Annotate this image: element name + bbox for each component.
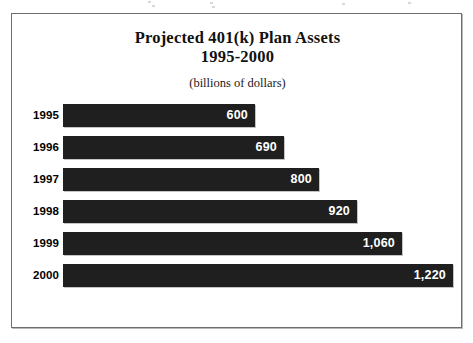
chart-title: Projected 401(k) Plan Assets <box>12 28 463 47</box>
scan-artifacts <box>0 0 473 12</box>
bar-chart-plot-area: 199560019966901997800199892019991,060200… <box>12 104 463 319</box>
bar-category-label: 1997 <box>12 168 59 191</box>
chart-title-block: Projected 401(k) Plan Assets 1995-2000 (… <box>12 28 463 91</box>
bar-category-label: 2000 <box>12 264 59 287</box>
chart-title-years: 1995-2000 <box>12 47 463 66</box>
bar-shape: 690 <box>63 136 284 159</box>
bar-value-label: 1,220 <box>414 264 446 287</box>
bar-shape: 1,220 <box>63 264 453 287</box>
bar-value-label: 600 <box>227 104 248 127</box>
bar-value-label: 690 <box>256 136 277 159</box>
bar-category-label: 1996 <box>12 136 59 159</box>
bar-shape: 1,060 <box>63 232 402 255</box>
bar-value-label: 800 <box>291 168 312 191</box>
bar-value-label: 920 <box>329 200 350 223</box>
bar-category-label: 1998 <box>12 200 59 223</box>
chart-frame: Projected 401(k) Plan Assets 1995-2000 (… <box>11 13 462 328</box>
bar-shape: 920 <box>63 200 357 223</box>
chart-subtitle: (billions of dollars) <box>12 76 463 91</box>
bar-category-label: 1999 <box>12 232 59 255</box>
bar-category-label: 1995 <box>12 104 59 127</box>
bar-shape: 800 <box>63 168 319 191</box>
bar-value-label: 1,060 <box>363 232 395 255</box>
bar-shape: 600 <box>63 104 255 127</box>
